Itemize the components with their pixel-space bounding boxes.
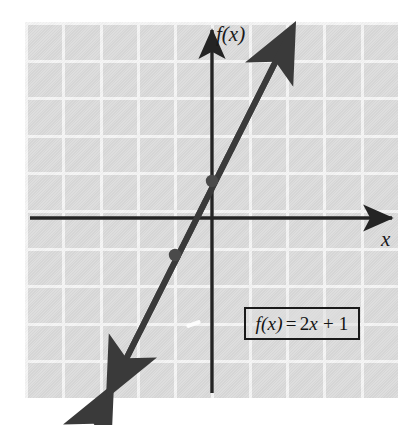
x-axis-label: x	[381, 227, 390, 252]
graph-vector-layer	[0, 0, 420, 425]
y-axis-label: f(x)	[216, 22, 245, 47]
equation-text: f(x)=2x + 1	[256, 313, 349, 335]
equation-lhs: f(x)	[256, 313, 283, 334]
equation-rhs: 2x + 1	[300, 313, 349, 334]
point-y-intercept	[206, 175, 218, 187]
function-graph-figure: f(x) x f(x)=2x + 1	[0, 0, 420, 425]
equation-equals: =	[286, 313, 297, 334]
equation-annotation-box: f(x)=2x + 1	[244, 307, 360, 340]
point-second	[169, 249, 181, 261]
